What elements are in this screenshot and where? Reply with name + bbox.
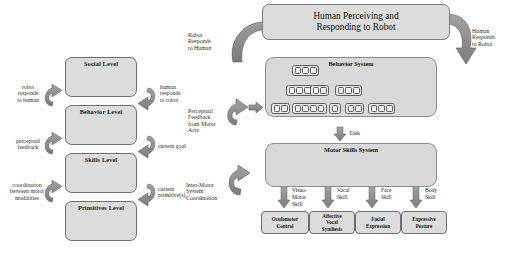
level-box-primitives[interactable]: Primitives Level bbox=[65, 201, 137, 241]
behavior-node bbox=[310, 67, 316, 73]
output-box-expressive-posture[interactable]: Expressive Posture bbox=[401, 211, 447, 234]
output-box-affective-vocal-synthesis[interactable]: Affective Vocal Synthesis bbox=[309, 211, 355, 234]
annotation-inter-motor-system-coordination: Inter-Motor System Coordination bbox=[186, 182, 238, 201]
behavior-node bbox=[338, 87, 344, 93]
figure-canvas: Social Level Behavior Level Skills Level… bbox=[0, 0, 512, 255]
output-box-oculomotor-control[interactable]: Oculomotor Control bbox=[261, 211, 309, 234]
output-box-facial-expression[interactable]: Facial Expression bbox=[355, 211, 401, 234]
annotation-perceptual-feedback: perceptual feedback bbox=[2, 138, 54, 151]
level-box-behavior[interactable]: Behavior Level bbox=[65, 105, 137, 145]
behavior-node bbox=[371, 105, 377, 111]
annotation-current-goal: current goal bbox=[158, 143, 208, 149]
behavior-node-group[interactable] bbox=[329, 103, 341, 114]
behavior-node-group[interactable] bbox=[310, 85, 329, 96]
behavior-node-group[interactable] bbox=[368, 103, 395, 114]
behavior-node-group[interactable] bbox=[271, 103, 290, 114]
behavior-node bbox=[310, 105, 316, 111]
behavior-node-group[interactable] bbox=[292, 103, 327, 114]
skill-label-visuo-motor: Visuo- Motor Skill bbox=[292, 187, 307, 208]
behavior-node bbox=[313, 87, 319, 93]
behavior-node bbox=[378, 105, 384, 111]
behavior-node bbox=[345, 87, 351, 93]
level-box-social[interactable]: Social Level bbox=[65, 57, 137, 97]
annotation-human-responds-to-robot-right: Human Responds to Robot bbox=[472, 28, 512, 47]
behavior-node bbox=[318, 105, 324, 111]
behavior-node bbox=[302, 67, 308, 73]
behavior-node bbox=[274, 105, 280, 111]
annotation-human-responds-to-robot: human responds to robot bbox=[160, 84, 206, 103]
level-box-skills[interactable]: Skills Level bbox=[65, 153, 137, 193]
behavior-node bbox=[353, 87, 359, 93]
annotation-coordination-between-motor-modalities: coordination between motor modalities bbox=[0, 182, 56, 201]
skill-label-vocal: Vocal Skill bbox=[337, 187, 350, 201]
level-label-skills: Skills Level bbox=[66, 156, 136, 163]
behavior-node bbox=[295, 105, 301, 111]
skill-label-face: Face Skill bbox=[381, 187, 392, 201]
behavior-node bbox=[386, 105, 392, 111]
skill-label-body: Body Skill bbox=[425, 187, 437, 201]
behavior-node bbox=[302, 105, 308, 111]
motor-skills-system-box[interactable]: Motor Skills System bbox=[265, 143, 437, 187]
level-label-behavior: Behavior Level bbox=[66, 108, 136, 115]
annotation-perceptual-feedback-from-motor-acts: Perceptual Feedback from Motor Acts bbox=[188, 108, 236, 134]
behavior-node bbox=[289, 87, 295, 93]
behavior-node bbox=[320, 87, 326, 93]
behavior-node bbox=[355, 105, 361, 111]
annotation-robot-responds-to-human-right: Robot Responds to Human bbox=[188, 32, 232, 51]
header-line-2: Responding to Robot bbox=[316, 22, 395, 33]
behavior-node-group[interactable] bbox=[292, 65, 319, 76]
behavior-node bbox=[295, 67, 301, 73]
level-label-social: Social Level bbox=[66, 60, 136, 67]
behavior-node bbox=[281, 105, 287, 111]
header-box-human-perceiving[interactable]: Human Perceiving and Responding to Robot bbox=[262, 4, 450, 40]
motor-skills-system-title: Motor Skills System bbox=[266, 146, 436, 153]
behavior-node bbox=[348, 105, 354, 111]
behavior-node bbox=[332, 105, 338, 111]
annotation-robot-responds-to-human: robot responds to human bbox=[2, 84, 54, 103]
task-arrow-label: Task bbox=[349, 130, 360, 136]
level-label-primitives: Primitives Level bbox=[66, 204, 136, 211]
behavior-node-group[interactable] bbox=[345, 103, 364, 114]
header-line-1: Human Perceiving and bbox=[313, 11, 398, 22]
behavior-node bbox=[296, 87, 302, 93]
behavior-node-group[interactable] bbox=[335, 85, 362, 96]
